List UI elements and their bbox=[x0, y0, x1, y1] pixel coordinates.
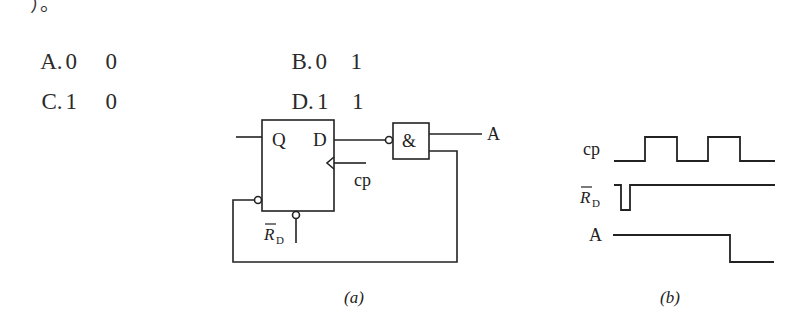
q-label: Q bbox=[272, 129, 286, 150]
waveform-diagram-b bbox=[613, 137, 775, 262]
cp-waveform bbox=[614, 137, 775, 161]
inverter-bubble-left bbox=[255, 197, 262, 204]
rd-waveform bbox=[614, 185, 775, 210]
cp-label: cp bbox=[354, 170, 371, 190]
rd-wave-label: R bbox=[579, 188, 591, 207]
caption-a: (a) bbox=[344, 288, 364, 307]
caption-b: (b) bbox=[660, 288, 680, 307]
output-a-label: A bbox=[487, 124, 500, 144]
d-label: D bbox=[313, 129, 327, 150]
inverter-bubble-gate bbox=[386, 137, 393, 144]
clock-triangle-icon bbox=[327, 157, 334, 169]
a-waveform bbox=[613, 235, 774, 262]
figure-canvas: Q D cp R D & A (a) cp R D A (b) bbox=[0, 0, 789, 326]
cp-wave-label: cp bbox=[583, 139, 600, 159]
reset-label: R bbox=[263, 225, 275, 244]
gate-symbol: & bbox=[402, 131, 416, 151]
feedback-wire bbox=[233, 151, 457, 262]
reset-bubble bbox=[293, 212, 300, 219]
reset-subscript: D bbox=[276, 234, 284, 246]
waveform-labels: cp R D A (b) bbox=[579, 139, 680, 307]
a-wave-label: A bbox=[589, 225, 602, 245]
rd-wave-subscript: D bbox=[592, 197, 600, 209]
